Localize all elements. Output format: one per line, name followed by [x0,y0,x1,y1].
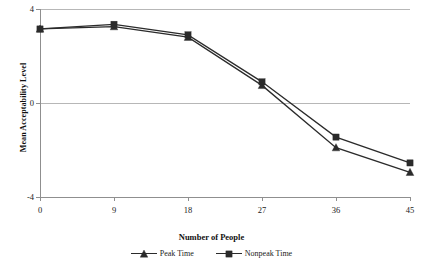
data-point-marker [111,21,117,27]
x-tick-label: 36 [332,205,341,215]
legend-item-nonpeak-time[interactable]: Nonpeak Time [216,249,292,258]
x-tick-label: 18 [184,205,193,215]
x-tick-mark [40,197,41,201]
series-peak-time [36,23,414,176]
y-axis-title: Mean Acceptability Level [19,33,28,183]
caption-text [0,266,423,270]
square-marker-icon [216,249,242,258]
chart-legend: Peak TimeNonpeak Time [0,249,423,258]
series-line [40,24,410,163]
x-tick-label: 9 [112,205,116,215]
axis-line-x [40,197,410,198]
x-tick-label: 45 [406,205,415,215]
data-point-marker [333,134,339,140]
series-nonpeak-time [37,21,413,166]
legend-label: Peak Time [159,249,194,258]
plot-area: 40-4 0918273645 [40,9,410,197]
figure-line-chart: Mean Acceptability Level 40-4 0918273645… [0,0,423,270]
legend-item-peak-time[interactable]: Peak Time [131,249,194,258]
x-tick-label: 0 [38,205,42,215]
triangle-marker-icon [131,249,157,258]
x-tick-label: 27 [258,205,267,215]
x-tick-mark [410,197,411,201]
x-tick-mark [262,197,263,201]
legend-label: Nonpeak Time [244,249,292,258]
data-point-marker [185,32,191,38]
x-axis-title: Number of People [0,232,423,242]
data-point-marker [259,79,265,85]
x-tick-mark [188,197,189,201]
x-tick-mark [336,197,337,201]
series-line [40,27,410,173]
series-layer [40,9,410,197]
data-point-marker [407,160,413,166]
y-tick-label: 0 [30,98,34,108]
y-tick-label: -4 [27,192,34,202]
x-tick-mark [114,197,115,201]
data-point-marker [37,26,43,32]
y-tick-label: 4 [30,4,34,14]
